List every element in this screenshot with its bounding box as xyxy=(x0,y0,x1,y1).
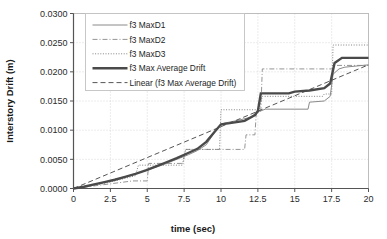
y-tick-label: 0.0000 xyxy=(40,184,68,194)
x-tick-label: 12.5 xyxy=(249,194,267,204)
x-axis-tick-labels: 02.557.51012.51517.520 xyxy=(71,194,374,204)
legend-item-label: f3 MaxD3 xyxy=(130,49,166,59)
legend-item-label: Linear (f3 Max Average Drift) xyxy=(130,78,237,88)
legend-item-label: f3 Max Average Drift xyxy=(130,63,206,73)
x-tick-label: 2.5 xyxy=(104,194,117,204)
x-axis-title: time (sec) xyxy=(171,223,215,234)
y-axis-title: Interstory Drift (m) xyxy=(4,59,15,142)
chart-legend: f3 MaxD1f3 MaxD2f3 MaxD3f3 Max Average D… xyxy=(86,14,245,91)
y-tick-label: 0.0250 xyxy=(40,38,68,48)
x-tick-label: 0 xyxy=(71,194,76,204)
x-tick-label: 7.5 xyxy=(178,194,191,204)
legend-item-label: f3 MaxD1 xyxy=(130,20,166,30)
x-tick-label: 5 xyxy=(145,194,150,204)
x-tick-label: 20 xyxy=(363,194,373,204)
chart-figure: 02.557.51012.51517.520 0.00000.00500.010… xyxy=(0,0,387,239)
y-tick-label: 0.0200 xyxy=(40,67,68,77)
y-tick-label: 0.0100 xyxy=(40,125,68,135)
legend-item-label: f3 MaxD2 xyxy=(130,35,166,45)
y-tick-label: 0.0150 xyxy=(40,96,68,106)
x-tick-label: 15 xyxy=(290,194,300,204)
y-tick-label: 0.0300 xyxy=(40,9,68,19)
x-tick-label: 17.5 xyxy=(323,194,341,204)
y-tick-label: 0.0050 xyxy=(40,155,68,165)
chart-canvas: 02.557.51012.51517.520 0.00000.00500.010… xyxy=(0,0,387,239)
x-tick-label: 10 xyxy=(216,194,226,204)
